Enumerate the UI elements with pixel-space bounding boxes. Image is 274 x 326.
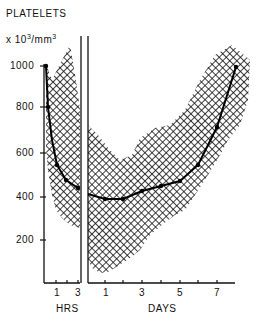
ytick-400: 400 (16, 191, 34, 202)
ytick-200: 200 (16, 234, 34, 245)
days-tick-1: 1 (103, 287, 109, 298)
unit-exp2: 3 (52, 33, 56, 40)
days-tick-7: 7 (214, 287, 220, 298)
unit-prefix: x 10 (6, 34, 27, 45)
ytick-800: 800 (16, 101, 34, 112)
days-axis-label: DAYS (148, 303, 177, 314)
y-axis-unit: x 103/mm3 (6, 33, 57, 45)
hrs-axis-label: HRS (56, 303, 79, 314)
chart-title: PLATELETS (6, 8, 66, 19)
unit-mid: /mm (31, 34, 52, 45)
platelet-chart (0, 0, 274, 326)
hrs-tick-1: 1 (54, 287, 60, 298)
days-range-band (88, 45, 250, 273)
days-tick-5: 5 (177, 287, 183, 298)
ytick-600: 600 (16, 147, 34, 158)
hrs-tick-3: 3 (75, 287, 81, 298)
days-tick-3: 3 (139, 287, 145, 298)
ytick-1000: 1000 (10, 60, 34, 71)
